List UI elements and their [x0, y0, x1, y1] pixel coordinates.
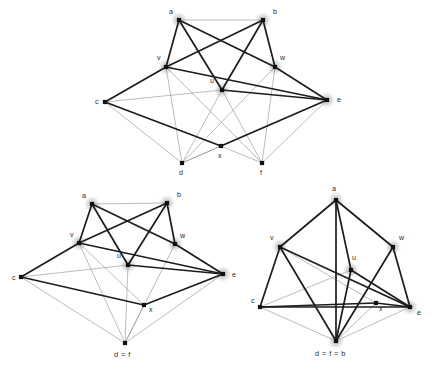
node-label-w: w [279, 53, 286, 62]
node-c [19, 275, 23, 279]
node-halos-layer [71, 12, 419, 350]
node-v [278, 245, 282, 249]
edge-v-f [166, 67, 262, 163]
node-label-w: w [179, 231, 186, 240]
node-v [77, 241, 81, 245]
node-label-e: e [232, 270, 236, 279]
node-label-e: e [417, 308, 421, 317]
node-label-v: v [157, 53, 161, 62]
edge-v-x [79, 243, 144, 305]
edge-x-e [144, 274, 223, 305]
node-b [165, 201, 169, 205]
edge-x-e [221, 100, 327, 146]
node-e [408, 305, 412, 309]
node-label-x: x [218, 151, 222, 160]
node-w [391, 245, 395, 249]
edge-a-v [280, 200, 336, 247]
node-label-v: v [270, 233, 274, 242]
node-label-a: a [169, 7, 173, 16]
node-u [220, 88, 224, 92]
node-label-dfb: d = f = b [315, 349, 346, 358]
edge-c-df [21, 277, 125, 343]
node-x [374, 301, 378, 305]
node-label-u: u [210, 76, 214, 85]
edge-v-dfb [280, 247, 336, 341]
edge-c-d [105, 102, 182, 163]
node-w [273, 65, 277, 69]
edge-b-w [263, 20, 275, 67]
node-label-v: v [70, 230, 74, 239]
edge-e-df [125, 274, 223, 343]
edge-c-x [21, 277, 144, 305]
node-d [180, 161, 184, 165]
edge-v-x [280, 247, 376, 303]
edge-w-d [182, 67, 275, 163]
edge-c-dfb [260, 307, 336, 341]
edge-c-v [21, 243, 79, 277]
node-b [261, 18, 265, 22]
node-f [260, 161, 264, 165]
node-label-w: w [398, 233, 405, 242]
node-e [325, 98, 329, 102]
edge-v-e [79, 243, 223, 274]
node-c [103, 100, 107, 104]
edge-u-df [125, 265, 128, 343]
node-label-u: u [117, 251, 121, 260]
graph-figure: abvwucexdfabvwucexd = favwucexd = f = b [0, 0, 436, 379]
node-label-c: c [95, 97, 99, 106]
nodes-layer [19, 18, 412, 345]
edge-f-e [262, 100, 327, 163]
edge-u-e [222, 90, 327, 100]
node-label-df: d = f [114, 350, 131, 359]
node-a [177, 18, 181, 22]
node-label-c: c [12, 273, 16, 282]
edge-u-d [182, 90, 222, 163]
node-label-c: c [251, 296, 255, 305]
edge-x-df [125, 305, 144, 343]
node-label-u: u [352, 253, 356, 262]
edge-v-d [166, 67, 182, 163]
node-e [221, 272, 225, 276]
edge-x-f [221, 146, 262, 163]
edge-v-e [166, 67, 327, 100]
graph-canvas: abvwucexdfabvwucexd = favwucexd = f = b [0, 0, 436, 379]
node-c [258, 305, 262, 309]
node-label-b: b [177, 190, 181, 199]
edge-w-f [262, 67, 275, 163]
node-label-a: a [82, 191, 86, 200]
node-label-a: a [332, 184, 336, 193]
edge-w-dfb [336, 247, 393, 341]
node-x [142, 303, 146, 307]
node-label-d: d [179, 168, 183, 177]
edge-c-v [260, 247, 280, 307]
node-label-b: b [273, 7, 277, 16]
node-v [164, 65, 168, 69]
node-w [173, 242, 177, 246]
node-x [219, 144, 223, 148]
node-a [90, 202, 94, 206]
node-a [334, 198, 338, 202]
node-label-f: f [260, 168, 262, 177]
edge-a-v [166, 20, 179, 67]
node-label-x: x [379, 304, 383, 313]
node-u [349, 268, 353, 272]
edge-a-b [92, 203, 167, 204]
node-u [126, 263, 130, 267]
thin-edges-layer [21, 20, 410, 343]
thick-edges-layer [21, 20, 410, 341]
node-label-e: e [337, 95, 341, 104]
node-dfb [334, 339, 338, 343]
edge-u-e [128, 265, 223, 274]
node-df [123, 341, 127, 345]
node-label-x: x [149, 305, 153, 314]
